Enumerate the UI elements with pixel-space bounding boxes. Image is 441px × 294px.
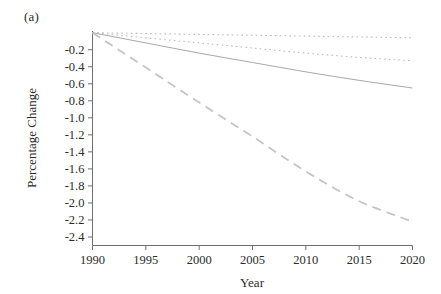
y-tick-label--0.8: -0.8 [65,94,85,108]
y-tick-label--1.4: -1.4 [65,145,86,159]
y-tick-label--1.0: -1.0 [65,111,85,125]
y-tick-label--0.2: -0.2 [65,43,85,57]
y-tick-label--0.4: -0.4 [65,60,86,74]
y-tick-label--1.2: -1.2 [65,128,85,142]
line-series-4 [93,33,413,222]
x-axis-title: Year [240,275,265,290]
x-tick-label-1995: 1995 [133,253,158,267]
y-tick-label--0.6: -0.6 [65,77,85,91]
y-tick-label--1.6: -1.6 [65,162,85,176]
x-axis-ticks [93,246,413,251]
y-axis-tick-labels: -0.2-0.4-0.6-0.8-1.0-1.2-1.4-1.6-1.8-2.0… [65,43,86,244]
y-tick-label--2.0: -2.0 [65,196,85,210]
line-series-2 [93,33,413,61]
y-tick-label--1.8: -1.8 [65,179,85,193]
line-chart: -0.2-0.4-0.6-0.8-1.0-1.2-1.4-1.6-1.8-2.0… [0,0,441,294]
x-tick-label-2005: 2005 [240,253,265,267]
axis-spines [93,31,413,246]
y-tick-label--2.4: -2.4 [65,230,86,244]
y-axis-ticks [88,50,93,237]
x-axis-tick-labels: 1990199520002005201020152020 [80,253,425,267]
line-series-3 [93,33,413,88]
x-tick-label-2010: 2010 [293,253,318,267]
y-tick-label--2.2: -2.2 [65,213,85,227]
data-series-group [93,33,413,222]
y-axis-title: Percentage Change [24,88,39,188]
figure-panel-a: (a) -0.2-0.4-0.6-0.8-1.0-1.2-1.4-1.6-1.8… [0,0,441,294]
x-tick-label-2020: 2020 [400,253,425,267]
x-tick-label-2015: 2015 [347,253,372,267]
x-tick-label-1990: 1990 [80,253,105,267]
x-tick-label-2000: 2000 [187,253,212,267]
